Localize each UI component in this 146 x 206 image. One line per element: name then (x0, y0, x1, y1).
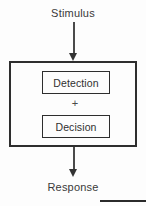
stimulus-label: Stimulus (0, 7, 146, 19)
stage-box-decision: Decision (42, 115, 110, 138)
response-arrow-icon (69, 147, 78, 178)
arrow-head (69, 169, 77, 177)
arrow-head (69, 53, 77, 61)
arrow-stem (73, 22, 75, 54)
page-rule-divider (100, 200, 146, 202)
stimulus-arrow-icon (69, 22, 78, 61)
stage-box-detection: Detection (42, 71, 110, 94)
stage-label-detection: Detection (53, 77, 98, 89)
stage-label-decision: Decision (55, 121, 96, 133)
process-box: Detection + Decision (9, 61, 137, 147)
diagram-figure: Stimulus Detection + Decision Response (0, 0, 146, 206)
arrow-stem (73, 147, 75, 170)
plus-operator: + (11, 98, 139, 108)
response-label: Response (0, 181, 146, 193)
